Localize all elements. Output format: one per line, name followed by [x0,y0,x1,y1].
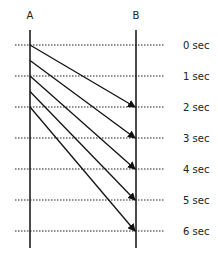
lifelines [30,30,136,248]
timing-diagram: 0 sec1 sec2 sec3 sec4 sec5 sec6 secAB [0,0,218,257]
time-label: 6 sec [183,226,209,237]
message-arrow [30,76,135,169]
participant-label-a: A [27,10,34,21]
time-label: 5 sec [183,195,209,206]
time-label: 3 sec [183,133,209,144]
message-arrow [30,92,135,201]
labels: 0 sec1 sec2 sec3 sec4 sec5 sec6 secAB [27,10,210,237]
time-label: 0 sec [183,40,209,51]
time-label: 2 sec [183,102,209,113]
time-label: 1 sec [183,71,209,82]
time-gridlines [15,45,165,231]
time-label: 4 sec [183,164,209,175]
participant-label-b: B [133,10,140,21]
